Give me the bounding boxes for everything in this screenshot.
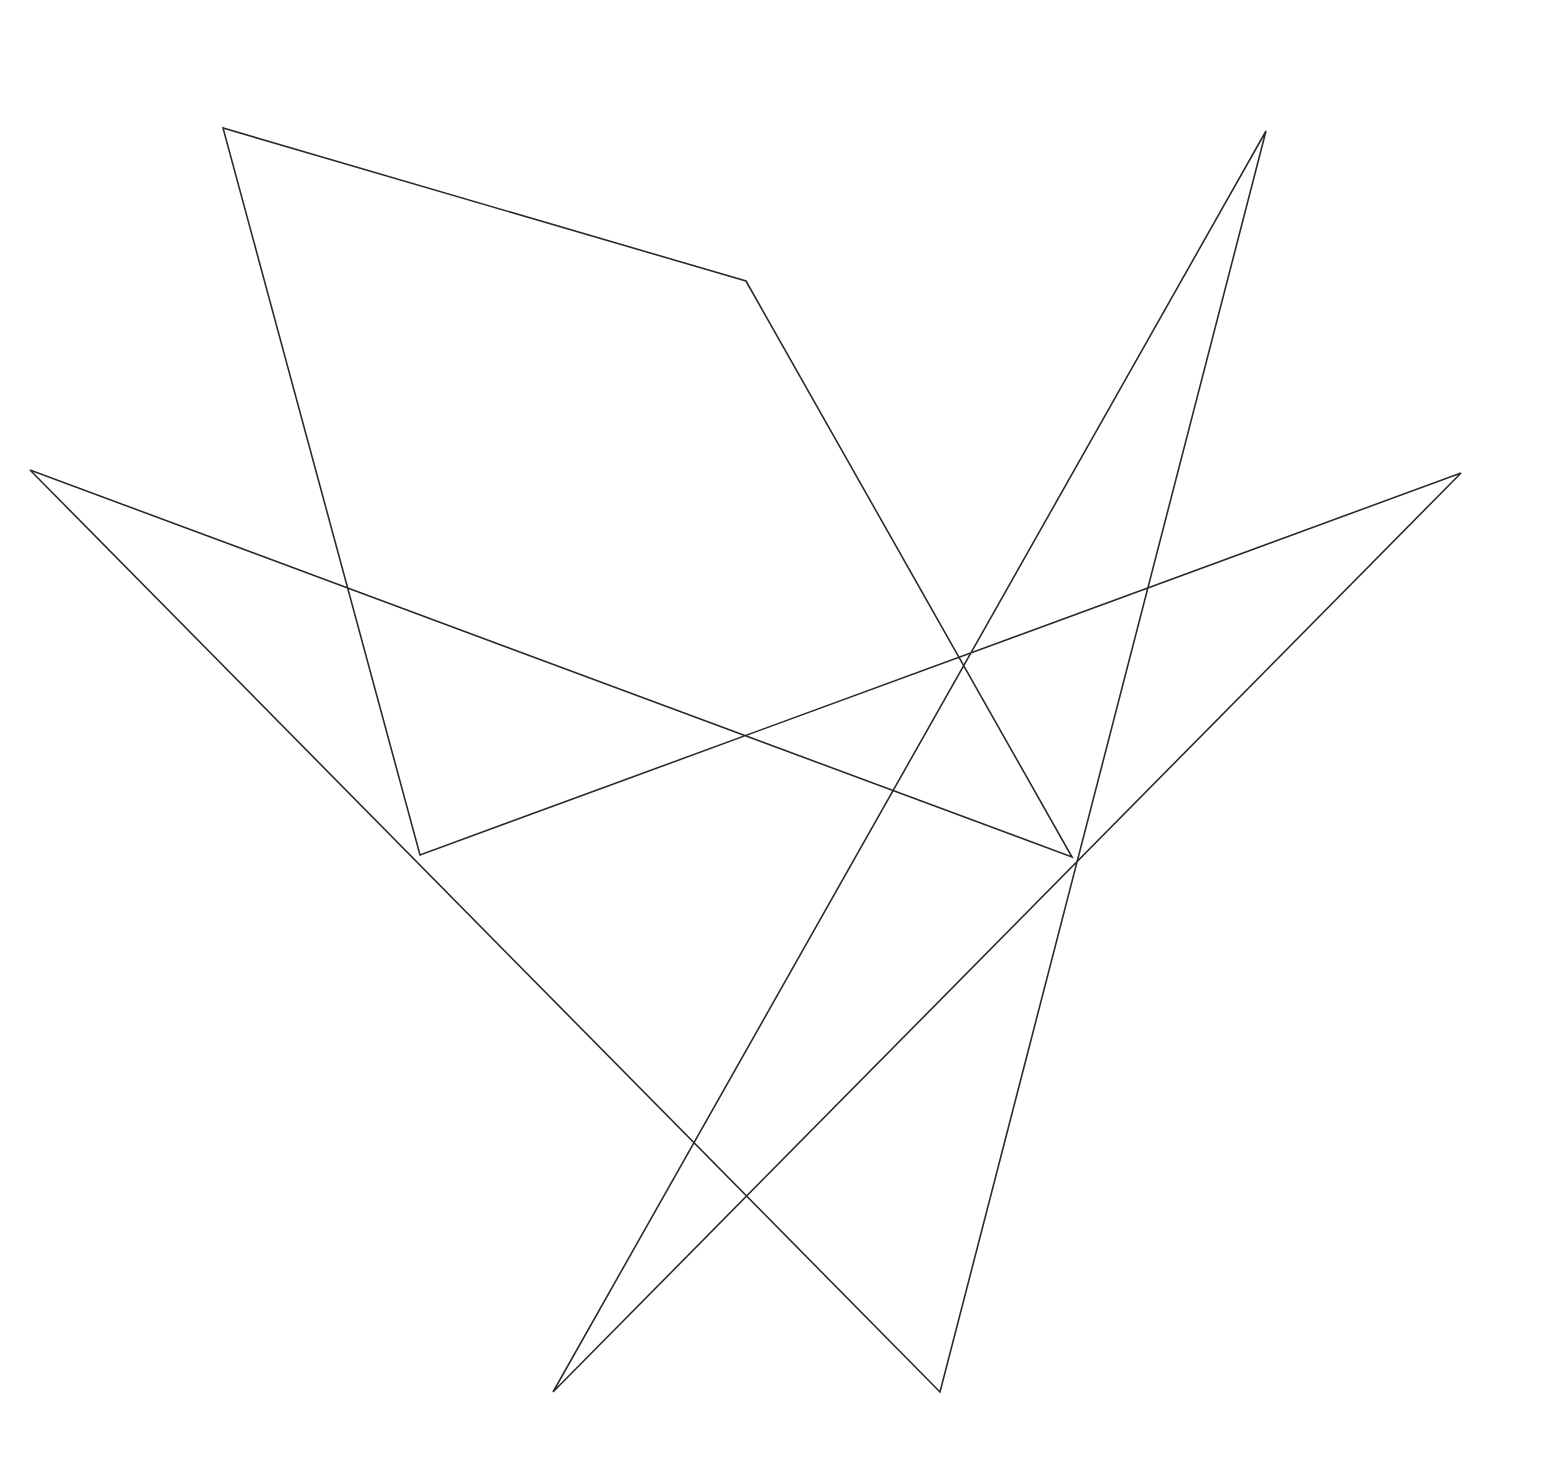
star-polygon-figure — [0, 0, 1543, 1480]
background-rect — [0, 0, 1543, 1480]
figure-canvas — [0, 0, 1543, 1480]
